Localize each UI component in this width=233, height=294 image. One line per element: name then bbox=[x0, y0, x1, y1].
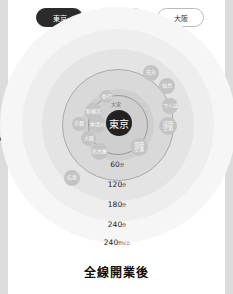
station-label: 日光 bbox=[146, 70, 156, 75]
ring-label-180: 180分 bbox=[108, 200, 126, 209]
station-nakatsugawa: 中津川 bbox=[89, 116, 106, 133]
station-label: 羽田 空港 bbox=[134, 142, 144, 153]
station-label: 成田 空港 bbox=[163, 121, 173, 132]
station-label: 大宮 bbox=[111, 102, 121, 107]
station-narita: 成田 空港 bbox=[159, 117, 177, 135]
station-label: 広島 bbox=[67, 175, 77, 180]
center-station-tokyo: 東京 bbox=[106, 110, 132, 136]
station-label: 大阪 bbox=[84, 136, 94, 141]
station-nagoya: 名古屋 bbox=[91, 143, 108, 160]
station-kyoto: 京都 bbox=[72, 117, 86, 131]
center-label: 東京 bbox=[109, 116, 129, 131]
station-haneda: 羽田 空港 bbox=[130, 138, 148, 156]
station-label: 新行 bbox=[102, 94, 112, 99]
station-tsukuba: つくば bbox=[162, 98, 178, 114]
station-label: 新横浜 bbox=[86, 109, 101, 114]
station-label: 京都 bbox=[74, 121, 84, 126]
station-label: 仙台 bbox=[162, 83, 172, 88]
station-sendai: 仙台 bbox=[159, 78, 175, 94]
ring-label-240: 240分 bbox=[108, 220, 126, 229]
station-omiya: 大宮 bbox=[109, 100, 123, 110]
station-nikko: 日光 bbox=[143, 65, 159, 81]
station-label: つくば bbox=[163, 103, 178, 108]
station-hiroshima: 広島 bbox=[64, 170, 80, 186]
station-shinko: 新行 bbox=[100, 90, 113, 103]
station-label: 中津川 bbox=[90, 122, 105, 127]
ring-label-60: 60分 bbox=[110, 160, 124, 169]
tab-label: 大阪 bbox=[174, 13, 188, 23]
ring-label-120: 120分 bbox=[108, 180, 126, 189]
ring-label-240-plus: 240分以上 bbox=[104, 238, 130, 247]
caption-title: 全線開業後 bbox=[0, 263, 233, 280]
station-label: 名古屋 bbox=[92, 149, 107, 154]
